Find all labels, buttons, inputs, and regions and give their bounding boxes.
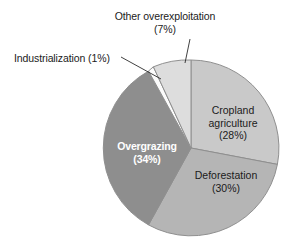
callout-other-line1: Other overexploitation bbox=[100, 10, 230, 23]
deforestation-line1: Deforestation bbox=[178, 169, 274, 182]
cropland-line3: (28%) bbox=[195, 129, 271, 142]
cropland-line1: Cropland bbox=[195, 104, 271, 117]
slice-label-cropland-agriculture: Cropland agriculture (28%) bbox=[195, 104, 271, 142]
deforestation-line2: (30%) bbox=[178, 182, 274, 195]
cropland-line2: agriculture bbox=[195, 117, 271, 130]
callout-label-industrialization: Industrialization (1%) bbox=[14, 52, 110, 65]
callout-industrialization-line1: Industrialization (1%) bbox=[14, 52, 110, 65]
slice-label-overgrazing: Overgrazing (34%) bbox=[104, 140, 190, 165]
slice-label-deforestation: Deforestation (30%) bbox=[178, 169, 274, 194]
callout-other-line2: (7%) bbox=[100, 23, 230, 36]
leader-line-other-overexploitation bbox=[185, 39, 190, 63]
callout-label-other-overexploitation: Other overexploitation (7%) bbox=[100, 10, 230, 35]
overgrazing-line2: (34%) bbox=[104, 153, 190, 166]
overgrazing-line1: Overgrazing bbox=[104, 140, 190, 153]
pie-chart: Other overexploitation (7%) Industrializ… bbox=[0, 0, 308, 250]
